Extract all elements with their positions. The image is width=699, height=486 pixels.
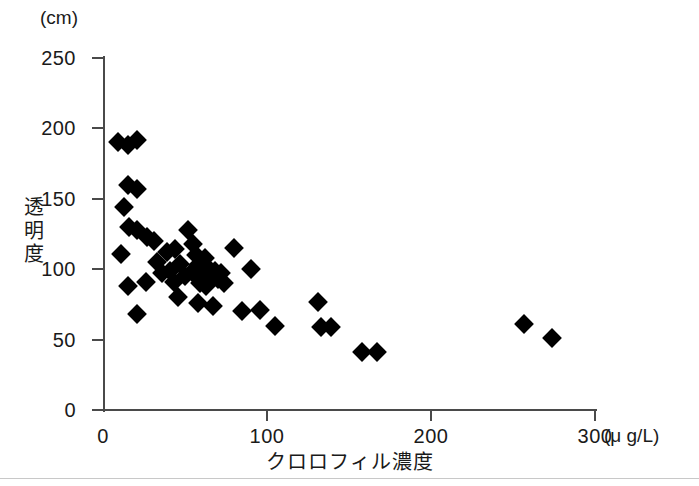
x-axis-title: クロロフィル濃度 bbox=[0, 452, 699, 472]
data-point bbox=[136, 272, 156, 292]
data-point bbox=[169, 287, 189, 307]
data-point bbox=[128, 304, 148, 324]
data-point bbox=[114, 197, 134, 217]
y-axis-title-char-2: 明 bbox=[22, 220, 46, 244]
data-point bbox=[515, 314, 535, 334]
y-tick-label-200: 200 bbox=[41, 118, 76, 138]
x-tick-200 bbox=[430, 410, 432, 421]
data-point bbox=[224, 238, 244, 258]
y-tick-label-250: 250 bbox=[41, 48, 76, 68]
x-tick-100 bbox=[266, 410, 268, 421]
data-point bbox=[203, 296, 223, 316]
x-tick-300 bbox=[594, 410, 596, 421]
y-axis-unit-label: (cm) bbox=[40, 8, 78, 27]
y-tick-label-0: 0 bbox=[64, 400, 76, 420]
y-tick-label-100: 100 bbox=[41, 259, 76, 279]
data-point bbox=[367, 342, 387, 362]
y-tick-label-50: 50 bbox=[53, 330, 76, 350]
x-tick-label-100: 100 bbox=[250, 426, 285, 446]
data-point bbox=[265, 316, 285, 336]
y-tick-250: 250 bbox=[92, 57, 103, 59]
x-tick-label-200: 200 bbox=[414, 426, 449, 446]
data-point bbox=[111, 244, 131, 264]
x-axis-unit-label: (μ g/L) bbox=[604, 426, 659, 445]
y-tick-50: 50 bbox=[92, 339, 103, 341]
y-tick-label-150: 150 bbox=[41, 189, 76, 209]
y-tick-200: 200 bbox=[92, 127, 103, 129]
y-tick-150: 150 bbox=[92, 198, 103, 200]
scatter-chart-figure: (cm) 透 明 度 050100150200250 0100200300 (μ… bbox=[0, 0, 699, 486]
y-tick-0: 0 bbox=[92, 409, 103, 411]
data-point bbox=[118, 276, 138, 296]
data-point bbox=[542, 328, 562, 348]
page-divider bbox=[0, 478, 699, 479]
data-point bbox=[251, 300, 271, 320]
data-point bbox=[241, 259, 261, 279]
x-tick-label-0: 0 bbox=[97, 426, 109, 446]
data-point bbox=[232, 302, 252, 322]
y-tick-100: 100 bbox=[92, 268, 103, 270]
plot-area: 050100150200250 0100200300 bbox=[103, 58, 595, 410]
data-point bbox=[308, 292, 328, 312]
